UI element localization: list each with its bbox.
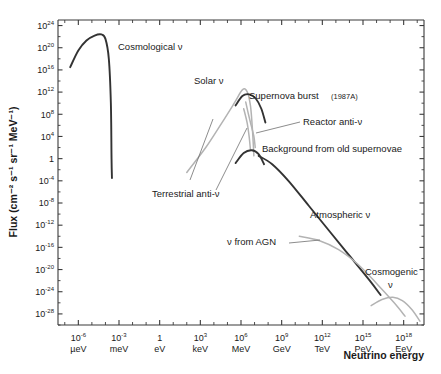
curve-atmospheric [259,156,381,295]
annotation-supernova-burst-year: (1987A) [331,92,358,101]
y-tick-label: 10-28 [35,308,54,319]
x-tick-label: 10-6 [71,332,87,343]
x-tick-label: 103 [194,332,208,343]
annotation-leader-lines [190,119,320,243]
x-unit-label: GeV [273,344,291,354]
y-tick-label: 1020 [37,42,54,53]
x-tick-label: 109 [275,332,289,343]
annotation-reactor: Reactor anti-ν [303,116,362,127]
neutrino-flux-chart: 1024102010161012108104110-410-810-1210-1… [0,0,441,374]
y-tick-label: 10-16 [35,242,54,253]
x-tick-label: 106 [234,332,248,343]
x-tick-label: 10-3 [111,332,127,343]
chart-annotations: Cosmological νSolar νSupernova burst(198… [118,41,418,290]
curve-terrestrial-anti [244,109,251,151]
x-tick-label: 1 [157,333,162,343]
annotation-background-old-supernovae: Background from old supernovae [262,143,402,154]
y-axis-tick-labels: 1024102010161012108104110-410-810-1210-1… [35,20,54,319]
x-unit-label: MeV [232,344,251,354]
y-tick-label: 104 [41,131,55,142]
x-unit-label: keV [193,344,209,354]
x-tick-label: 1015 [355,332,372,343]
annotation-agn: ν from AGN [227,236,276,247]
curve-solar [187,89,254,173]
x-unit-label: µeV [70,344,86,354]
x-unit-label: TeV [315,344,331,354]
annotation-cosmogenic-nu: ν [388,279,393,290]
y-tick-label: 1 [49,154,54,164]
y-tick-label: 108 [41,109,55,120]
y-tick-label: 1016 [37,64,54,75]
y-tick-label: 10-24 [35,286,54,297]
annotation-cosmological: Cosmological ν [118,41,183,52]
y-tick-label: 10-8 [39,197,55,208]
y-tick-label: 10-12 [35,219,54,230]
x-unit-label: meV [110,344,129,354]
annotation-cosmogenic: Cosmogenic [365,266,418,277]
annotation-supernova-burst: Supernova burst [249,90,319,101]
y-tick-label: 10-20 [35,264,54,275]
y-axis-title: Flux (cm⁻² s⁻¹ sr⁻¹ MeV⁻¹) [7,107,19,238]
data-curves [70,34,420,321]
annotation-terrestrial: Terrestrial anti-ν [152,188,220,199]
curve-cosmogenic [371,297,420,321]
x-axis-ticks [65,20,417,325]
x-tick-label: 1018 [395,332,412,343]
annotation-solar: Solar ν [194,75,224,86]
y-tick-label: 10-4 [39,175,55,186]
annotation-atmospheric: Atmospheric ν [310,209,370,220]
y-tick-label: 1012 [37,86,54,97]
curve-cosmological [70,34,112,178]
x-tick-label: 1012 [314,332,331,343]
x-axis-title: Neutrino energy [343,349,424,361]
x-unit-label: eV [154,344,165,354]
y-tick-label: 1024 [37,20,54,31]
neutrino-flux-figure: 1024102010161012108104110-410-810-1210-1… [0,0,441,374]
